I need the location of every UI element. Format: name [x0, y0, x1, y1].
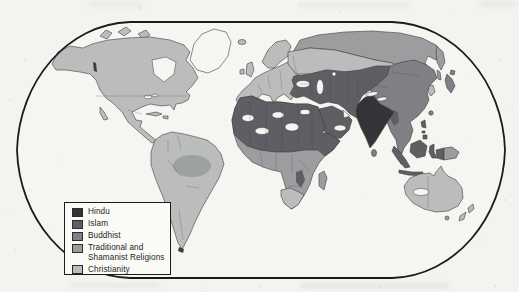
- legend-label: Christianity: [83, 265, 130, 275]
- region-iceland: [238, 40, 246, 45]
- region-taiwan: [429, 111, 433, 115]
- legend-label: Buddhist: [83, 231, 121, 241]
- legend-swatch-christianity: [72, 265, 83, 274]
- bleedthrough-smudge: [70, 283, 160, 288]
- scanned-figure-page: Hindu Islam Buddhist Traditional and Sha…: [0, 0, 519, 292]
- legend-swatch-islam: [72, 220, 83, 229]
- legend-label: Islam: [83, 219, 108, 229]
- legend-swatch-traditional: [72, 244, 83, 253]
- legend-label-line1: Traditional and: [88, 243, 143, 252]
- legend-label: Hindu: [83, 207, 110, 217]
- legend-label-line2: Shamanist Religions: [88, 253, 165, 262]
- bleedthrough-smudge: [300, 3, 410, 8]
- bleedthrough-smudge: [480, 1, 516, 7]
- legend-item-buddhist: Buddhist: [72, 231, 170, 241]
- legend-item-christianity: Christianity: [72, 265, 170, 275]
- legend-swatch-buddhist: [72, 232, 83, 241]
- region-tasmania: [445, 216, 449, 220]
- map-legend: Hindu Islam Buddhist Traditional and Sha…: [64, 202, 171, 275]
- bleedthrough-smudge: [88, 2, 143, 7]
- legend-item-traditional: Traditional and Shamanist Religions: [72, 243, 170, 262]
- legend-item-islam: Islam: [72, 219, 170, 229]
- legend-swatch-hindu: [72, 208, 83, 217]
- region-amazon-basin: [173, 155, 211, 177]
- legend-label: Traditional and Shamanist Religions: [83, 243, 165, 262]
- legend-item-hindu: Hindu: [72, 207, 170, 217]
- region-new-guinea-west: [436, 148, 444, 160]
- region-sri-lanka: [372, 150, 377, 157]
- bleedthrough-smudge: [300, 283, 450, 289]
